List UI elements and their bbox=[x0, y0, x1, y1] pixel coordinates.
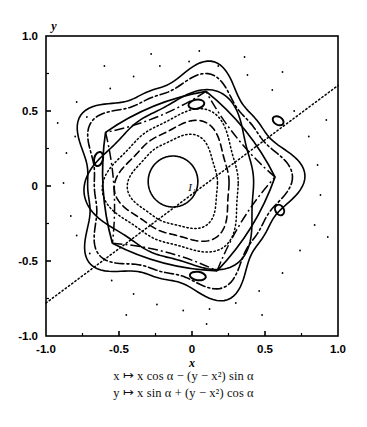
x-tick-label: -1.0 bbox=[36, 343, 56, 355]
scatter-point bbox=[299, 250, 301, 252]
y-tick-label: -0.5 bbox=[18, 255, 38, 267]
x-tick-label: 0 bbox=[189, 343, 195, 355]
scatter-point bbox=[235, 302, 237, 304]
y-axis-label: y bbox=[49, 19, 57, 33]
scatter-point bbox=[271, 89, 273, 91]
scatter-point bbox=[282, 272, 284, 274]
orbit-curve bbox=[127, 134, 217, 228]
scatter-point bbox=[57, 122, 59, 124]
scatter-point bbox=[258, 290, 260, 292]
scatter-point bbox=[150, 53, 152, 55]
scatter-point bbox=[282, 71, 284, 73]
scatter-point bbox=[86, 116, 88, 118]
separatrix-arc bbox=[217, 177, 275, 271]
scatter-point bbox=[327, 236, 329, 238]
scatter-point bbox=[308, 136, 310, 138]
scatter-point bbox=[70, 215, 72, 217]
y-tick-label: -1.0 bbox=[18, 330, 38, 342]
scatter-point bbox=[133, 76, 135, 78]
y-tick-label: 0 bbox=[32, 180, 38, 192]
caption-line-y: y ↦ x sin α + (y − x²) cos α bbox=[0, 385, 367, 402]
x-tick-label: 1.0 bbox=[330, 343, 346, 355]
scatter-point bbox=[247, 74, 249, 76]
orbit-curve bbox=[114, 120, 229, 241]
scatter-point bbox=[293, 110, 295, 112]
scatter-point bbox=[209, 308, 211, 310]
scatter-point bbox=[206, 323, 208, 325]
scatter-point bbox=[317, 164, 319, 166]
scatter-point bbox=[325, 119, 327, 121]
scatter-point bbox=[74, 136, 76, 138]
scatter-point bbox=[188, 61, 190, 63]
scatter-point bbox=[156, 304, 158, 306]
figure-root: -1.0-0.500.51.0-1.0-0.500.51.0yxI₁ x ↦ x… bbox=[0, 0, 367, 427]
scatter-point bbox=[109, 88, 111, 90]
phase-portrait-plot: -1.0-0.500.51.0-1.0-0.500.51.0yxI₁ bbox=[0, 0, 367, 427]
scatter-point bbox=[244, 56, 246, 58]
scatter-point bbox=[111, 280, 113, 282]
y-tick-label: 1.0 bbox=[22, 30, 38, 42]
separatrix-arc-inner bbox=[217, 177, 275, 271]
island-bottom bbox=[189, 271, 206, 282]
scatter-point bbox=[63, 182, 65, 184]
scatter-point bbox=[66, 152, 68, 154]
scatter-point bbox=[159, 65, 161, 67]
scatter-point bbox=[261, 314, 263, 316]
scatter-point bbox=[198, 50, 200, 52]
y-tick-label: 0.5 bbox=[22, 105, 39, 117]
scatter-point bbox=[320, 194, 322, 196]
x-tick-label: -0.5 bbox=[109, 343, 129, 355]
scatter-point bbox=[104, 65, 106, 67]
scatter-point bbox=[76, 235, 78, 237]
scatter-point bbox=[125, 314, 127, 316]
scatter-point bbox=[182, 310, 184, 312]
scatter-point bbox=[76, 101, 78, 103]
caption-line-x: x ↦ x cos α − (y − x²) sin α bbox=[0, 368, 367, 385]
island-upper-right bbox=[271, 114, 285, 127]
scatter-point bbox=[89, 253, 91, 255]
fixed-point-label: I₁ bbox=[187, 181, 196, 193]
scatter-point bbox=[314, 224, 316, 226]
scatter-point bbox=[217, 65, 219, 67]
orbit-curve bbox=[46, 86, 338, 304]
x-tick-label: 0.5 bbox=[257, 343, 274, 355]
caption-block: x ↦ x cos α − (y − x²) sin α y ↦ x sin α… bbox=[0, 368, 367, 402]
scatter-point bbox=[133, 293, 135, 295]
